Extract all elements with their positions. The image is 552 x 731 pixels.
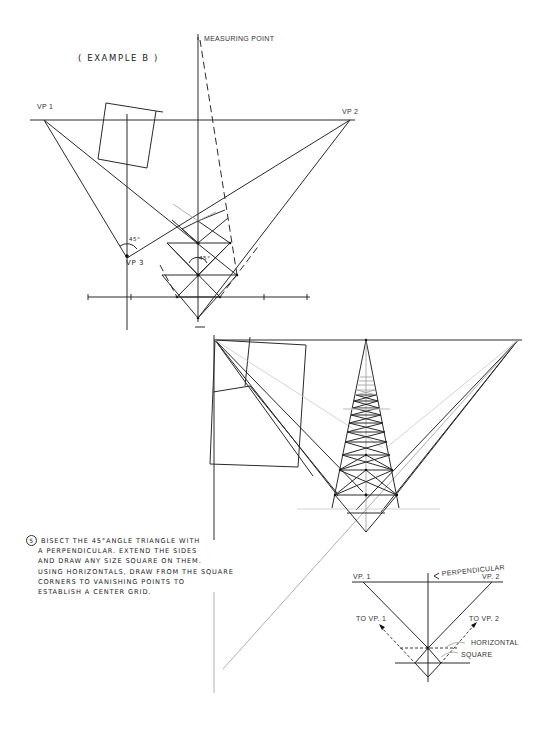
to-vp1-dashed-arrow	[380, 626, 415, 663]
right-vp-line	[381, 340, 518, 512]
instruction-line: AND DRAW ANY SIZE SQUARE ON THEM.	[38, 556, 268, 566]
right-vp-line	[356, 340, 518, 510]
inset-vp1-label: VP. 1	[353, 573, 371, 580]
vp1-label: VP 1	[37, 103, 53, 110]
vp3-label: VP 3	[126, 259, 144, 267]
step-number-badge: 5	[26, 535, 37, 546]
measuring-dashed-line	[200, 40, 237, 275]
vp2-line-to-vp3	[127, 120, 350, 258]
instruction-line: CORNERS TO VANISHING POINTS TO	[38, 577, 268, 587]
inset-vp2-label: VP. 2	[482, 573, 500, 580]
perspective-drawing-page: ( EXAMPLE B ) MEASURING POINT VP 1 VP 2 …	[0, 0, 552, 731]
instruction-line-text: BISECT THE 45°ANGLE TRIANGLE WITH	[41, 537, 200, 545]
dashed-left-extension	[160, 265, 177, 297]
right-vp-light-line	[386, 340, 518, 448]
example-title: ( EXAMPLE B )	[78, 53, 159, 63]
instruction-line: USING HORIZONTALS, DRAW FROM THE SQUARE	[38, 567, 268, 577]
square-leader-line	[441, 652, 458, 657]
angle-45-label-a: 45°	[129, 236, 141, 242]
tower-rotated-square	[210, 340, 306, 467]
diamond-grid	[162, 204, 238, 327]
tower-square-inner-line	[213, 386, 250, 392]
instruction-line: 5BISECT THE 45°ANGLE TRIANGLE WITH	[38, 535, 268, 546]
vp2-line-to-grid	[198, 120, 350, 318]
measuring-point-label: MEASURING POINT	[204, 35, 275, 42]
instruction-line: A PERPENDICULAR. EXTEND THE SIDES	[38, 546, 268, 556]
example-b-diagram: ( EXAMPLE B ) MEASURING POINT VP 1 VP 2 …	[30, 34, 358, 330]
left-vp-line	[250, 386, 337, 493]
perpendicular-arrow-icon	[434, 573, 439, 579]
inset-diagram: VP. 1 VP. 2 PERPENDICULAR TO VP. 1 TO VP…	[352, 563, 519, 682]
left-vp-line	[215, 340, 313, 476]
vp3-point	[125, 254, 129, 258]
arrowhead-icon	[471, 622, 477, 628]
square-label: SQUARE	[461, 651, 492, 659]
vp2-label: VP 2	[342, 108, 358, 115]
to-vp2-label: TO VP. 2	[469, 615, 499, 622]
horizontal-label: HORIZONTAL	[471, 639, 519, 646]
square-extension	[156, 111, 163, 112]
angle-45-label-b: 45°	[199, 255, 211, 261]
instruction-line: ESTABLISH A CENTER GRID.	[38, 587, 268, 597]
tower-left-edge	[332, 340, 366, 508]
arrowhead-icon	[379, 624, 385, 630]
vp1-line-to-grid	[44, 120, 238, 276]
vp1-line-to-vp3	[44, 120, 127, 258]
to-vp1-label: TO VP. 1	[356, 615, 386, 622]
angle-arc-vp3	[120, 244, 137, 249]
instruction-block: 5BISECT THE 45°ANGLE TRIANGLE WITH A PER…	[38, 535, 268, 597]
dashed-right-extension	[220, 244, 260, 297]
